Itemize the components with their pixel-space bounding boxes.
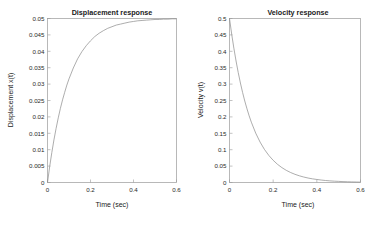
x-tick-label: 0.6 [172, 186, 181, 193]
x-tick-label: 0.4 [313, 186, 322, 193]
velocity-curve [230, 19, 361, 183]
x-tick-label: 0.2 [269, 186, 278, 193]
y-tick-label: 0.5 [218, 15, 227, 22]
y-tick-label: 0.3 [218, 80, 227, 87]
y-tick-label: 0.015 [29, 130, 45, 137]
displacement-plot: Displacement response 00.0050.010.0150.0… [0, 0, 193, 228]
x-axis-label-velocity: Time (sec) [282, 201, 315, 209]
axes-frame-velocity [230, 19, 361, 183]
y-tick-label: 0.45 [214, 31, 227, 38]
subplot-displacement: Displacement response 00.0050.010.0150.0… [0, 0, 193, 228]
y-tick-label: 0.02 [32, 113, 45, 120]
y-axis-label-displacement: Displacement x(t) [7, 73, 15, 127]
y-tick-label: 0.25 [214, 97, 227, 104]
y-tick-label: 0.045 [29, 31, 45, 38]
y-tick-label: 0.005 [29, 162, 45, 169]
y-tick-label: 0.05 [32, 15, 45, 22]
y-tick-label: 0.01 [32, 146, 45, 153]
y-tick-label: 0.35 [214, 64, 227, 71]
y-tick-label: 0.05 [214, 162, 227, 169]
x-tick-label: 0 [46, 186, 50, 193]
x-axis-label-displacement: Time (sec) [96, 201, 129, 209]
chart-title-displacement: Displacement response [72, 8, 153, 17]
y-tick-label: 0.025 [29, 97, 45, 104]
y-tick-label: 0.4 [218, 48, 227, 55]
x-tick-label: 0.6 [356, 186, 365, 193]
velocity-plot: Velocity response 00.050.10.150.20.250.3… [193, 0, 386, 228]
matlab-figure: Displacement response 00.0050.010.0150.0… [0, 0, 386, 228]
y-tick-label: 0.03 [32, 80, 45, 87]
y-axis-label-velocity: Velocity v(t) [197, 82, 205, 118]
x-tick-label: 0 [228, 186, 232, 193]
subplot-velocity: Velocity response 00.050.10.150.20.250.3… [193, 0, 386, 228]
y-tick-label: 0 [41, 179, 45, 186]
y-tick-label: 0.035 [29, 64, 45, 71]
x-axis-ticks-displacement: 00.20.40.6 [46, 180, 182, 193]
y-tick-label: 0.15 [214, 130, 227, 137]
y-tick-label: 0.04 [32, 48, 45, 55]
chart-title-velocity: Velocity response [267, 8, 328, 17]
y-tick-label: 0.2 [218, 113, 227, 120]
displacement-curve [48, 19, 177, 183]
x-tick-label: 0.4 [129, 186, 138, 193]
x-tick-label: 0.2 [86, 186, 95, 193]
axes-frame-displacement [48, 19, 177, 183]
y-tick-label: 0 [223, 179, 227, 186]
y-tick-label: 0.1 [218, 146, 227, 153]
